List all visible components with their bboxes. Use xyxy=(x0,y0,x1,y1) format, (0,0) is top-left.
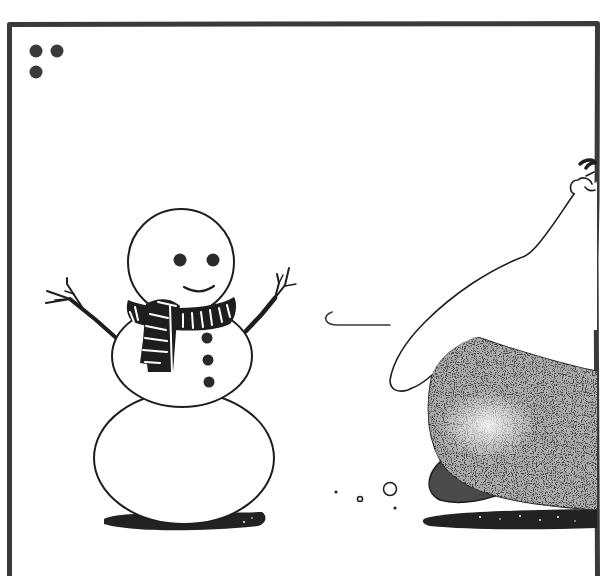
dot-icon xyxy=(30,66,43,79)
snowman-bottom-ball xyxy=(94,392,274,524)
snowman-eye-right xyxy=(207,254,220,267)
panel-number-dots xyxy=(30,45,64,79)
snowman-left-arm xyxy=(46,278,123,344)
comic-panel xyxy=(0,0,614,576)
snow-puffs xyxy=(335,483,396,509)
button-icon xyxy=(204,377,215,388)
dot-icon xyxy=(30,45,43,58)
figure-shadow xyxy=(423,509,600,529)
button-icon xyxy=(203,355,214,366)
dot-icon xyxy=(51,45,64,58)
snowman-right-arm xyxy=(246,268,296,331)
motion-line xyxy=(326,312,390,325)
button-icon xyxy=(202,333,213,344)
snowman-eye-left xyxy=(174,254,187,267)
figure-dark-mound xyxy=(428,337,600,510)
